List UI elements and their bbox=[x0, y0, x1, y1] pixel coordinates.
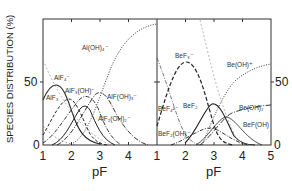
ytick-0-right: 0 bbox=[274, 138, 281, 152]
label-beoh2: Be(OH)₂ bbox=[239, 104, 264, 112]
x-axis-label-right: pF bbox=[206, 164, 221, 179]
label-alfoh3: AlF(OH)₃⁻ bbox=[107, 93, 137, 101]
label-alf4: AlF₄⁻ bbox=[54, 74, 70, 81]
xtick-r5: 5 bbox=[268, 149, 275, 163]
species-distribution-chart: SPECIES DISTRIBUTION (%) 50 0 50 0 1 2 3… bbox=[0, 0, 292, 191]
xtick-r3: 3 bbox=[211, 149, 218, 163]
curve-alf3 bbox=[43, 99, 107, 145]
left-panel-curves bbox=[43, 24, 157, 145]
xtick-r4: 4 bbox=[239, 149, 246, 163]
y-axis-label: SPECIES DISTRIBUTION (%) bbox=[4, 15, 15, 143]
xtick-1: 1 bbox=[40, 149, 47, 163]
xtick-4: 4 bbox=[125, 149, 132, 163]
label-alf3: AlF₃ bbox=[46, 94, 59, 101]
label-befoh: BeF(OH) bbox=[243, 121, 269, 129]
label-beoh: Be(OH)⁺ bbox=[227, 61, 253, 69]
ytick-50-right: 50 bbox=[275, 75, 289, 89]
label-bef4: BeF₄²⁻ bbox=[158, 105, 179, 112]
curve-aloh4 bbox=[71, 24, 157, 144]
x-tick-labels: 1 2 3 4 1 2 3 4 5 bbox=[40, 149, 275, 163]
label-bef2: BeF₂ bbox=[183, 102, 198, 109]
label-bef2oh: BeF₂(OH)⁻ bbox=[158, 130, 191, 138]
xtick-3: 3 bbox=[97, 149, 104, 163]
curve-faint-1 bbox=[43, 60, 110, 145]
xtick-2: 2 bbox=[68, 149, 75, 163]
label-bef3: BeF₃⁻ bbox=[175, 52, 194, 59]
label-alf3oh: AlF₃(OH)⁻ bbox=[65, 87, 95, 95]
label-aloh4: Al(OH)₄⁻ bbox=[82, 44, 109, 52]
label-alf2oh2: AlF₂(OH)₂⁻ bbox=[98, 115, 131, 123]
xtick-r2: 2 bbox=[182, 149, 189, 163]
x-axis-label-left: pF bbox=[92, 164, 107, 179]
xtick-shared-1: 1 bbox=[154, 149, 161, 163]
ytick-50-left: 50 bbox=[24, 75, 38, 89]
